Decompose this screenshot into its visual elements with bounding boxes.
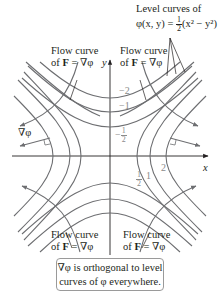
x-axis-label: x: [203, 162, 208, 174]
flow-curve-label-top-left: Flow curve of F = ∇φ: [51, 45, 99, 69]
flow-curve-label-bottom-left: Flow curve of F = ∇φ: [51, 229, 99, 253]
level-label-two: 2: [161, 163, 166, 173]
gradient-label: ∇φ: [18, 127, 31, 139]
note-line2: curves of φ everywhere.: [57, 275, 163, 289]
level-label-neg1: −1: [119, 101, 130, 111]
level-label-one: 1: [146, 171, 151, 181]
right-angle-marker-left: [44, 140, 50, 145]
level-curves-title-line1: Level curves of: [136, 3, 217, 15]
orthogonality-note: ∇φ is orthogonal to level curves of φ ev…: [56, 258, 164, 291]
level-label-neghalf: −12: [115, 127, 127, 144]
level-label-neg2: −2: [119, 86, 130, 96]
flow-curve-top-left: [20, 62, 78, 126]
flow-curve-label-bottom-right: Flow curve of F = ∇φ: [123, 229, 171, 253]
y-axis-label: y: [102, 57, 107, 69]
right-angle-marker-right: [170, 140, 176, 145]
note-line1: ∇φ is orthogonal to level: [57, 261, 163, 275]
level-curves-equation: φ(x, y) = 12(x² − y²): [136, 16, 217, 33]
level-curves-title: Level curves of φ(x, y) = 12(x² − y²): [136, 3, 217, 33]
flow-curve-top-right: [142, 62, 198, 126]
hyperbola-diagram: [0, 0, 222, 294]
level-label-half: 12: [136, 171, 142, 188]
flow-curve-label-top-right: Flow curve of F = ∇φ: [120, 45, 168, 69]
